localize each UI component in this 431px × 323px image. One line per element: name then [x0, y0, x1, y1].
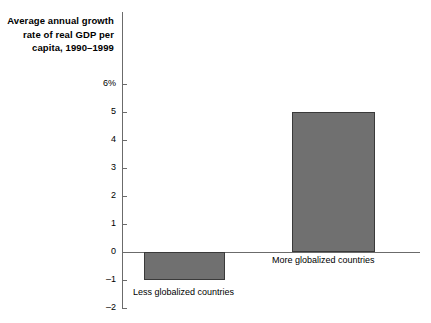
y-tick-mark [122, 196, 127, 197]
bar [144, 252, 225, 280]
y-tick-label: 6% [78, 78, 116, 89]
y-tick-label-text: 0 [78, 246, 116, 256]
y-tick-label: –2 [78, 302, 116, 313]
y-tick-mark [122, 308, 127, 309]
y-tick-mark [122, 84, 127, 85]
chart-title-line-1: Average annual growth [0, 14, 114, 28]
y-tick-label-text: –2 [78, 302, 116, 312]
y-tick-mark [122, 168, 127, 169]
y-tick-mark [122, 140, 127, 141]
y-tick-mark [122, 112, 127, 113]
y-tick-mark [122, 280, 127, 281]
category-label: Less globalized countries [133, 287, 234, 297]
y-tick-label: –1 [78, 274, 116, 285]
y-tick-label: 4 [78, 134, 116, 145]
y-tick-label-text: 2 [78, 190, 116, 200]
y-tick-label-text: 5 [78, 106, 116, 116]
chart-title-line-2: rate of real GDP per [0, 28, 114, 42]
y-tick-mark [122, 252, 127, 253]
y-tick-label: 2 [78, 190, 116, 201]
y-tick-label: 1 [78, 218, 116, 229]
y-tick-label: 3 [78, 162, 116, 173]
y-tick-label-text: 1 [78, 218, 116, 228]
chart-title: Average annual growth rate of real GDP p… [0, 14, 114, 55]
chart-title-line-3: capita, 1990–1999 [0, 41, 114, 55]
y-tick-label: 0 [78, 246, 116, 257]
y-axis-line [122, 12, 123, 309]
y-tick-label-text: 3 [78, 162, 116, 172]
chart-figure: Average annual growth rate of real GDP p… [0, 0, 431, 323]
y-tick-mark [122, 224, 127, 225]
category-label: More globalized countries [272, 255, 375, 265]
y-tick-label-text: 4 [78, 134, 116, 144]
y-tick-label-text: 6% [78, 78, 116, 88]
bar [292, 112, 375, 252]
y-tick-label-text: –1 [78, 274, 116, 284]
y-tick-label: 5 [78, 106, 116, 117]
